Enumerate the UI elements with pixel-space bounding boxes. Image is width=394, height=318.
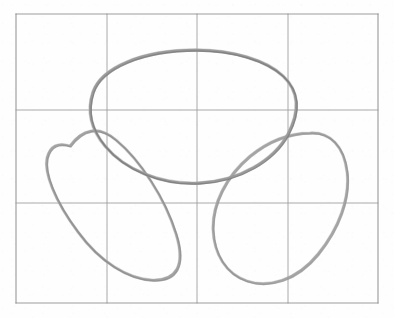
sketch-figure (0, 0, 394, 318)
sketch-canvas (0, 0, 394, 318)
